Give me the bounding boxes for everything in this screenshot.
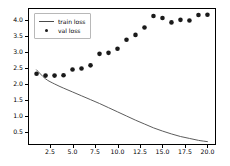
val-loss-point xyxy=(133,33,138,38)
val-loss-point xyxy=(124,37,129,42)
legend-label-train-loss: train loss xyxy=(58,19,85,25)
val-loss-point xyxy=(79,66,84,71)
plot-area: 0.51.01.52.02.53.03.54.0 2.55.07.510.012… xyxy=(28,8,216,145)
val-loss-point xyxy=(61,73,66,78)
legend-label-val-loss: val loss xyxy=(58,28,80,34)
val-loss-point xyxy=(169,20,174,25)
chart-legend: train loss val loss xyxy=(34,13,91,39)
val-loss-point xyxy=(43,73,48,78)
y-tick-label: 3.0 xyxy=(13,49,23,55)
y-tick-label: 4.0 xyxy=(13,17,23,23)
val-loss-point xyxy=(178,18,183,23)
legend-entry-train-loss: train loss xyxy=(38,17,85,26)
val-loss-point xyxy=(142,25,147,30)
line-sample-icon xyxy=(38,21,55,22)
val-loss-point xyxy=(187,18,192,23)
y-tick-label: 2.0 xyxy=(13,81,23,87)
x-tick-label: 17.5 xyxy=(178,149,192,155)
x-tick-label: 15.0 xyxy=(156,149,170,155)
val-loss-point xyxy=(196,13,201,18)
val-loss-point xyxy=(205,12,210,17)
val-loss-point xyxy=(115,46,120,51)
y-tick-label: 1.0 xyxy=(13,113,23,119)
val-loss-point xyxy=(88,63,93,68)
y-tick-label: 1.5 xyxy=(13,97,23,103)
x-tick-label: 12.5 xyxy=(133,149,147,155)
x-tick-label: 5.0 xyxy=(68,149,78,155)
y-tick-label: 2.5 xyxy=(13,65,23,71)
x-tick-label: 2.5 xyxy=(45,149,55,155)
dot-marker-icon xyxy=(38,29,55,33)
val-loss-point xyxy=(70,67,75,72)
x-tick-label: 10.0 xyxy=(111,149,125,155)
val-loss-point xyxy=(34,71,39,76)
val-loss-point xyxy=(151,14,156,19)
val-loss-point xyxy=(106,51,111,56)
loss-curve-figure: 0.51.01.52.02.53.03.54.0 2.55.07.510.012… xyxy=(0,0,230,166)
val-loss-point xyxy=(97,52,102,57)
x-tick-label: 7.5 xyxy=(90,149,100,155)
val-loss-point xyxy=(52,73,57,78)
val-loss-point xyxy=(160,16,165,21)
train-loss-line xyxy=(37,70,208,142)
legend-entry-val-loss: val loss xyxy=(38,26,85,35)
y-tick-label: 0.5 xyxy=(13,129,23,135)
x-tick-label: 20.0 xyxy=(201,149,215,155)
y-tick-label: 3.5 xyxy=(13,33,23,39)
